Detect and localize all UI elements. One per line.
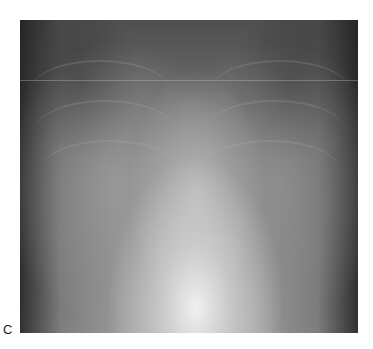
panel-label: C bbox=[3, 323, 12, 336]
chest-xray-image bbox=[20, 20, 358, 333]
rib-shadow bbox=[40, 140, 180, 202]
rib-shadow bbox=[200, 140, 340, 202]
figure-panel: C bbox=[0, 0, 373, 349]
